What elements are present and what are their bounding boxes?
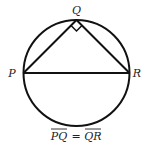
label-q: Q — [72, 4, 81, 17]
caption-right: QR — [84, 130, 101, 143]
caption-left: PQ — [50, 130, 67, 143]
caption-op: = — [71, 130, 80, 143]
label-r: R — [132, 67, 141, 80]
caption-equation: PQ = QR — [50, 129, 102, 143]
label-p: P — [7, 67, 16, 80]
geometry-diagram: Q P R PQ = QR — [0, 0, 147, 144]
right-angle-marker — [71, 26, 82, 32]
